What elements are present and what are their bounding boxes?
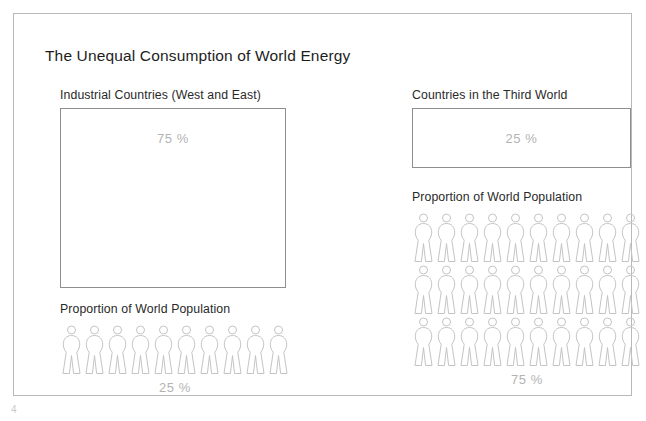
human-figure-icon: [458, 264, 481, 316]
human-figure-icon: [481, 212, 504, 264]
energy-share-box-industrial: 75 %: [60, 108, 286, 288]
human-figure-icon: [267, 324, 290, 376]
human-figure-icon: [221, 324, 244, 376]
human-figure-icon: [550, 212, 573, 264]
energy-share-value-industrial: 75 %: [61, 131, 285, 146]
human-figure-icon: [458, 316, 481, 368]
human-figure-icon: [60, 324, 83, 376]
human-figure-icon: [412, 212, 435, 264]
human-figure-icon: [504, 212, 527, 264]
panel-heading-industrial: Industrial Countries (West and East): [60, 88, 286, 102]
human-figure-icon: [504, 264, 527, 316]
population-heading-third-world: Proportion of World Population: [412, 190, 642, 204]
human-figure-icon: [550, 264, 573, 316]
page-number: 4: [11, 404, 17, 415]
population-group-industrial: Proportion of World Population 25 %: [60, 302, 290, 395]
human-figure-icon: [619, 212, 642, 264]
human-figure-icon: [175, 324, 198, 376]
energy-share-box-third-world: 25 %: [412, 108, 631, 168]
human-figure-icon: [152, 324, 175, 376]
figure-row: [412, 264, 642, 316]
human-figure-icon: [527, 316, 550, 368]
human-figure-icon: [573, 212, 596, 264]
human-figure-icon: [129, 324, 152, 376]
population-share-value-third-world: 75 %: [412, 372, 642, 387]
human-figure-icon: [458, 212, 481, 264]
page-title: The Unequal Consumption of World Energy: [45, 47, 350, 65]
figure-row: [412, 212, 642, 264]
population-group-third-world: Proportion of World Population 75 %: [412, 190, 642, 387]
human-figure-icon: [596, 264, 619, 316]
figure-rows-industrial: [60, 324, 290, 376]
human-figure-icon: [412, 316, 435, 368]
human-figure-icon: [435, 212, 458, 264]
panel-heading-third-world: Countries in the Third World: [412, 88, 631, 102]
human-figure-icon: [550, 316, 573, 368]
human-figure-icon: [504, 316, 527, 368]
figure-row: [412, 316, 642, 368]
human-figure-icon: [481, 264, 504, 316]
human-figure-icon: [412, 264, 435, 316]
human-figure-icon: [481, 316, 504, 368]
page-frame: The Unequal Consumption of World Energy …: [13, 13, 632, 396]
population-heading-industrial: Proportion of World Population: [60, 302, 290, 316]
human-figure-icon: [435, 316, 458, 368]
panel-industrial-countries: Industrial Countries (West and East) 75 …: [60, 88, 286, 288]
panel-third-world-countries: Countries in the Third World 25 %: [412, 88, 631, 168]
human-figure-icon: [596, 316, 619, 368]
human-figure-icon: [527, 212, 550, 264]
human-figure-icon: [83, 324, 106, 376]
human-figure-icon: [198, 324, 221, 376]
human-figure-icon: [596, 212, 619, 264]
human-figure-icon: [573, 316, 596, 368]
human-figure-icon: [573, 264, 596, 316]
population-share-value-industrial: 25 %: [60, 380, 290, 395]
human-figure-icon: [619, 264, 642, 316]
figure-rows-third-world: [412, 212, 642, 368]
human-figure-icon: [527, 264, 550, 316]
human-figure-icon: [619, 316, 642, 368]
figure-row: [60, 324, 290, 376]
human-figure-icon: [106, 324, 129, 376]
energy-share-value-third-world: 25 %: [413, 131, 630, 146]
human-figure-icon: [244, 324, 267, 376]
human-figure-icon: [435, 264, 458, 316]
